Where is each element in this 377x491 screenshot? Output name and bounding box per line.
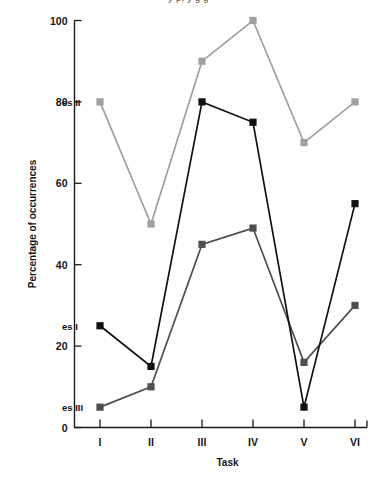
y-axis-tick-label: 40 <box>56 259 68 271</box>
y-axis-tick-label: 100 <box>50 15 68 27</box>
x-axis-tick-label: IV <box>248 436 258 448</box>
series-data-point <box>96 322 103 329</box>
x-axis-tick-label: II <box>148 436 154 448</box>
series-es-i <box>96 98 358 410</box>
series-line <box>100 228 355 407</box>
series-line <box>100 102 355 407</box>
series-data-point <box>147 220 154 227</box>
series-data-point <box>249 17 256 24</box>
series-data-point <box>351 200 358 207</box>
series-data-point <box>249 119 256 126</box>
y-axis-tick-label: 0 <box>62 422 68 434</box>
series-data-point <box>300 359 307 366</box>
series-label-es-iii: es III <box>62 402 83 413</box>
series-data-point <box>351 98 358 105</box>
y-axis-tick-label: 20 <box>56 340 68 352</box>
y-axis-tick-label: 60 <box>56 177 68 189</box>
series-es-iii <box>96 224 358 410</box>
x-axis-title: Task <box>216 457 238 468</box>
x-axis-tick-label: I <box>99 436 102 448</box>
series-es-ii <box>96 17 358 228</box>
series-data-point <box>198 241 205 248</box>
y-axis-title: Percentage of occurrences <box>27 159 38 288</box>
series-data-point <box>96 404 103 411</box>
line-chart-plot: 020406080100IIIIIIIVVVITaskPercentage of… <box>0 0 377 491</box>
chart-figure: y p, y g g 020406080100IIIIIIIVVVITaskPe… <box>0 0 377 491</box>
x-axis-tick-label: III <box>198 436 207 448</box>
series-data-point <box>198 58 205 65</box>
series-data-point <box>198 98 205 105</box>
x-axis-tick-label: V <box>300 436 307 448</box>
x-axis-tick-label: VI <box>350 436 360 448</box>
chart-axes <box>75 21 368 428</box>
series-data-point <box>300 139 307 146</box>
series-label-es-i: es I <box>62 321 78 332</box>
series-data-point <box>147 383 154 390</box>
series-data-point <box>300 404 307 411</box>
series-data-point <box>96 98 103 105</box>
series-data-point <box>147 363 154 370</box>
series-data-point <box>351 302 358 309</box>
series-data-point <box>249 224 256 231</box>
series-label-es-ii: es II <box>62 97 81 108</box>
series-line <box>100 21 355 225</box>
